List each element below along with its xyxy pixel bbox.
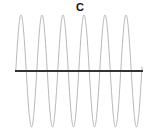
sine-wave-diagram (0, 0, 148, 134)
